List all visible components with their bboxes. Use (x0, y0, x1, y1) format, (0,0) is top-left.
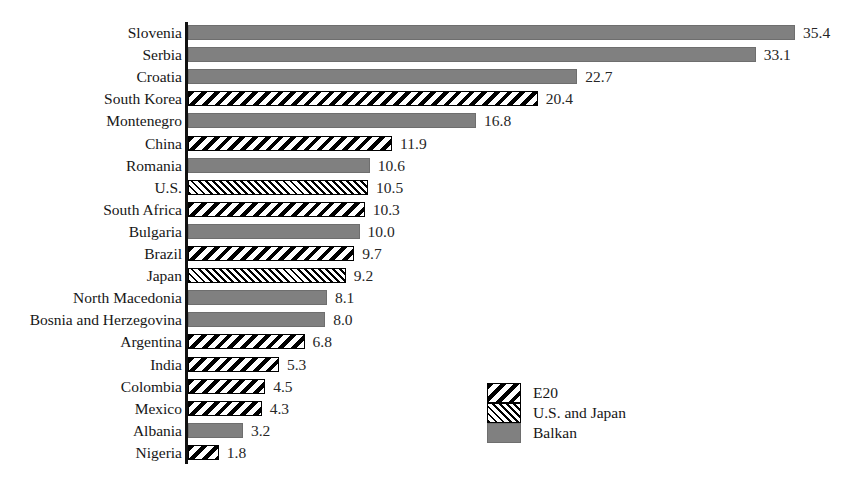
bar-row: Romania10.6 (0, 155, 864, 177)
bar (188, 180, 368, 195)
category-label: Croatia (136, 66, 182, 88)
bar-value-label: 9.2 (354, 265, 373, 287)
bar (188, 379, 265, 394)
bar-value-label: 10.3 (373, 199, 400, 221)
legend-swatch-usjp (487, 403, 521, 423)
bar-value-label: 20.4 (546, 88, 573, 110)
bar-value-label: 22.7 (585, 66, 612, 88)
bar-row: South Africa10.3 (0, 199, 864, 221)
bar-value-label: 35.4 (803, 22, 830, 44)
bar-row: Mexico4.3 (0, 398, 864, 420)
category-label: U.S. (154, 177, 182, 199)
bar-row: Nigeria1.8 (0, 442, 864, 464)
category-label: South Africa (103, 199, 182, 221)
bar (188, 312, 325, 327)
category-label: Romania (126, 155, 182, 177)
bar-value-label: 4.5 (273, 376, 292, 398)
plot-area: Slovenia35.4Serbia33.1Croatia22.7South K… (0, 0, 864, 495)
bar-row: Colombia4.5 (0, 376, 864, 398)
bar (188, 113, 476, 128)
bar-row: Slovenia35.4 (0, 22, 864, 44)
bar-row: China11.9 (0, 133, 864, 155)
bar-row: U.S.10.5 (0, 177, 864, 199)
bar-value-label: 4.3 (270, 398, 289, 420)
bar-row: Croatia22.7 (0, 66, 864, 88)
bar-value-label: 1.8 (227, 442, 246, 464)
bar-row: India5.3 (0, 354, 864, 376)
bar (188, 445, 219, 460)
bar-row: Japan9.2 (0, 265, 864, 287)
category-label: China (145, 133, 182, 155)
bar (188, 91, 538, 106)
bar-value-label: 9.7 (362, 243, 381, 265)
bar-row: Bosnia and Herzegovina8.0 (0, 309, 864, 331)
category-label: India (150, 354, 182, 376)
category-label: Serbia (142, 44, 182, 66)
bar-row: South Korea20.4 (0, 88, 864, 110)
category-label: Brazil (144, 243, 182, 265)
bar-value-label: 33.1 (764, 44, 791, 66)
bar (188, 25, 795, 40)
bar (188, 202, 365, 217)
legend-item: U.S. and Japan (487, 403, 687, 423)
bar (188, 246, 354, 261)
bar-row: Montenegro16.8 (0, 110, 864, 132)
bar (188, 334, 305, 349)
bar-row: Bulgaria10.0 (0, 221, 864, 243)
bar-value-label: 8.1 (335, 287, 354, 309)
chart-legend: E20U.S. and JapanBalkan (487, 383, 687, 443)
category-label: Mexico (135, 398, 182, 420)
category-label: South Korea (104, 88, 182, 110)
bar-value-label: 5.3 (287, 354, 306, 376)
bar-value-label: 3.2 (251, 420, 270, 442)
bar (188, 290, 327, 305)
bar-row: Serbia33.1 (0, 44, 864, 66)
legend-label: U.S. and Japan (533, 403, 626, 423)
bar (188, 158, 370, 173)
bar (188, 423, 243, 438)
bar (188, 357, 279, 372)
category-label: Montenegro (106, 110, 182, 132)
legend-label: Balkan (533, 423, 577, 443)
bar-value-label: 10.5 (376, 177, 403, 199)
bar-value-label: 16.8 (484, 110, 511, 132)
bar-value-label: 10.0 (368, 221, 395, 243)
category-label: North Macedonia (73, 287, 182, 309)
bar (188, 401, 262, 416)
bar (188, 268, 346, 283)
category-label: Bosnia and Herzegovina (30, 309, 182, 331)
bar-row: Albania3.2 (0, 420, 864, 442)
legend-item: E20 (487, 383, 687, 403)
legend-label: E20 (533, 383, 558, 403)
bar-value-label: 6.8 (313, 331, 332, 353)
bar-value-label: 11.9 (400, 133, 427, 155)
legend-swatch-balkan (487, 423, 521, 443)
legend-swatch-e20 (487, 383, 521, 403)
bar (188, 224, 360, 239)
category-label: Bulgaria (129, 221, 182, 243)
bar (188, 47, 756, 62)
bar-row: North Macedonia8.1 (0, 287, 864, 309)
category-label: Albania (133, 420, 182, 442)
bar-value-label: 8.0 (333, 309, 352, 331)
bar (188, 136, 392, 151)
legend-item: Balkan (487, 423, 687, 443)
bar (188, 69, 577, 84)
bar-row: Brazil9.7 (0, 243, 864, 265)
bar-value-label: 10.6 (378, 155, 405, 177)
bar-row: Argentina6.8 (0, 331, 864, 353)
category-label: Argentina (120, 331, 182, 353)
category-label: Japan (147, 265, 182, 287)
bar-chart: Slovenia35.4Serbia33.1Croatia22.7South K… (0, 0, 864, 495)
category-label: Slovenia (128, 22, 182, 44)
category-label: Nigeria (136, 442, 182, 464)
category-label: Colombia (121, 376, 182, 398)
